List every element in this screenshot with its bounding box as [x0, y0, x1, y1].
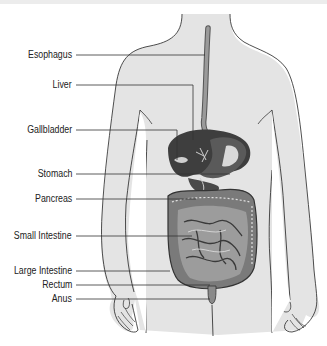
- label-esophagus: Esophagus: [28, 49, 72, 61]
- label-large-intestine: Large Intestine: [14, 265, 72, 277]
- body-silhouette: [0, 14, 327, 346]
- label-stomach: Stomach: [37, 168, 72, 180]
- label-rectum: Rectum: [42, 279, 72, 291]
- label-gallbladder: Gallbladder: [27, 124, 72, 136]
- label-small-intestine: Small Intestine: [14, 230, 72, 242]
- label-anus: Anus: [52, 293, 72, 305]
- label-pancreas: Pancreas: [35, 193, 72, 205]
- rectum-shape: [208, 286, 216, 304]
- small-intestine-shape: [178, 206, 249, 282]
- label-liver: Liver: [53, 79, 72, 91]
